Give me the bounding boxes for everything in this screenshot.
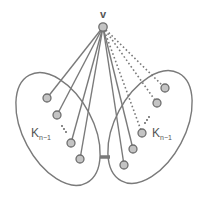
left-cluster-node xyxy=(76,155,84,163)
right-ellipsis-dot xyxy=(144,122,146,124)
edge-solid xyxy=(80,27,103,159)
graph-diagram: v Kn−1 Kn−1 xyxy=(0,0,206,200)
right-cluster-node xyxy=(153,99,161,107)
left-cluster-ellipse xyxy=(0,59,118,200)
right-cluster-label-sub: n−1 xyxy=(160,134,172,141)
right-cluster-label-main: K xyxy=(152,126,160,140)
right-ellipsis-dot xyxy=(146,119,148,121)
left-ellipsis-dot xyxy=(61,125,63,127)
right-cluster-node xyxy=(129,145,137,153)
left-cluster-label-sub: n−1 xyxy=(39,134,51,141)
right-cluster-node xyxy=(161,84,169,92)
edge-dotted xyxy=(103,27,142,133)
edge-solid xyxy=(47,27,103,98)
left-cluster-node xyxy=(43,94,51,102)
edge-dotted xyxy=(103,27,165,88)
apex-label: v xyxy=(100,8,107,20)
edge-dotted xyxy=(103,27,157,103)
edge-solid xyxy=(103,27,124,165)
apex-node-v xyxy=(99,23,107,31)
right-cluster-node xyxy=(138,129,146,137)
left-cluster-label: Kn−1 xyxy=(31,126,51,141)
edge-solid xyxy=(71,27,103,143)
left-cluster-node xyxy=(53,111,61,119)
edge-solid xyxy=(57,27,103,115)
right-cluster-label: Kn−1 xyxy=(152,126,172,141)
edges xyxy=(47,27,165,165)
right-cluster-ellipse xyxy=(90,57,206,198)
right-cluster-node xyxy=(120,161,128,169)
edge-solid xyxy=(103,27,133,149)
left-cluster-label-main: K xyxy=(31,126,39,140)
left-cluster-node xyxy=(67,139,75,147)
left-ellipsis-dot xyxy=(65,131,67,133)
left-ellipsis-dot xyxy=(63,128,65,130)
right-ellipsis-dot xyxy=(148,116,150,118)
